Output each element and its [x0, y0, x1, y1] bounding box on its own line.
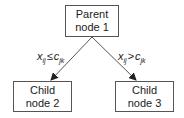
threshold-subscript: jk [141, 57, 146, 64]
split-condition-left: xij≤cjk [37, 50, 64, 64]
child-node-3: Child node 3 [115, 81, 174, 112]
variable-subscript: ij [124, 57, 127, 64]
node-label-line1: Child [132, 84, 157, 97]
node-label-line2: node 2 [26, 97, 60, 110]
threshold-subscript: jk [59, 57, 64, 64]
operator: ≤ [47, 50, 53, 62]
node-label-line2: node 1 [75, 21, 109, 34]
operator: > [128, 50, 134, 62]
split-condition-right: xij>cjk [118, 50, 146, 64]
node-label-line1: Parent [76, 8, 108, 21]
node-label-line2: node 3 [128, 97, 162, 110]
parent-node-1: Parent node 1 [65, 5, 119, 37]
variable-subscript: ij [43, 57, 46, 64]
child-node-2: Child node 2 [13, 81, 72, 112]
node-label-line1: Child [30, 84, 55, 97]
